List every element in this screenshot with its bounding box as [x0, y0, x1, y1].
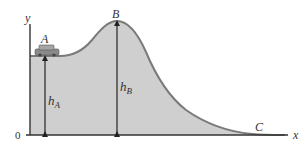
car-icon	[35, 45, 59, 57]
energy-profile-diagram: y x 0 A B C hA hB	[0, 0, 308, 150]
terrain-fill	[30, 21, 285, 135]
diagram-canvas: y x 0 A B C hA hB	[0, 0, 308, 150]
point-label-B: B	[112, 7, 120, 21]
origin-label: 0	[15, 129, 21, 141]
point-label-C: C	[255, 120, 264, 134]
x-axis-label: x	[292, 128, 299, 142]
y-axis-label: y	[24, 11, 31, 25]
point-label-A: A	[40, 32, 49, 46]
